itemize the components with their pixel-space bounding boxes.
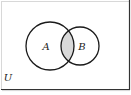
universe-label: U <box>4 72 13 83</box>
set-b-label: B <box>77 41 85 52</box>
venn-diagram: A B U <box>0 0 131 95</box>
set-a-label: A <box>41 41 49 52</box>
